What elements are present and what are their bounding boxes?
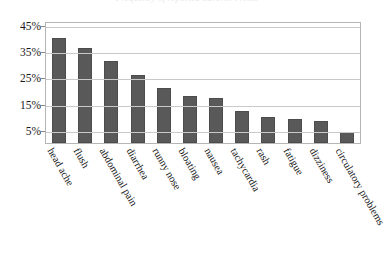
- bar: [104, 61, 118, 143]
- gridline: [46, 53, 360, 54]
- bar: [261, 117, 275, 143]
- x-axis-tick-label: diarrhea: [124, 146, 151, 181]
- chart-title-strip: Frequency of reported adverse events: [0, 0, 374, 11]
- gridline: [46, 106, 360, 107]
- x-axis-tick-label: nausea: [203, 146, 227, 176]
- x-axis-tick-label: flush: [72, 146, 92, 170]
- bar: [340, 132, 354, 143]
- gridline: [46, 79, 360, 80]
- y-axis-tick-label: 45%: [20, 20, 41, 32]
- gridline: [46, 27, 360, 28]
- bar: [235, 111, 249, 143]
- bar-series: [46, 23, 360, 143]
- x-axis-tick-label: circulatory problems: [333, 146, 386, 227]
- x-axis-tick-label: dizziness: [307, 146, 336, 185]
- bar: [78, 48, 92, 143]
- y-axis: 45%35%25%15%5%: [0, 0, 44, 160]
- x-axis-labels: head acheflushabdominal paindiarrhearunn…: [45, 146, 361, 257]
- x-axis-tick-label: fatigue: [281, 146, 305, 177]
- y-axis-tick-label: 15%: [20, 99, 41, 111]
- plot-area: [45, 22, 361, 144]
- y-axis-tick-label: 25%: [20, 72, 41, 84]
- x-axis-tick-label: rash: [255, 146, 273, 167]
- x-axis-tick-label: bloating: [176, 146, 203, 181]
- gridline: [46, 132, 360, 133]
- y-axis-tick-label: 5%: [26, 125, 41, 137]
- bar: [157, 88, 171, 143]
- bar: [183, 96, 197, 143]
- chart-title: Frequency of reported adverse events: [116, 0, 258, 3]
- y-axis-tick-label: 35%: [20, 46, 41, 58]
